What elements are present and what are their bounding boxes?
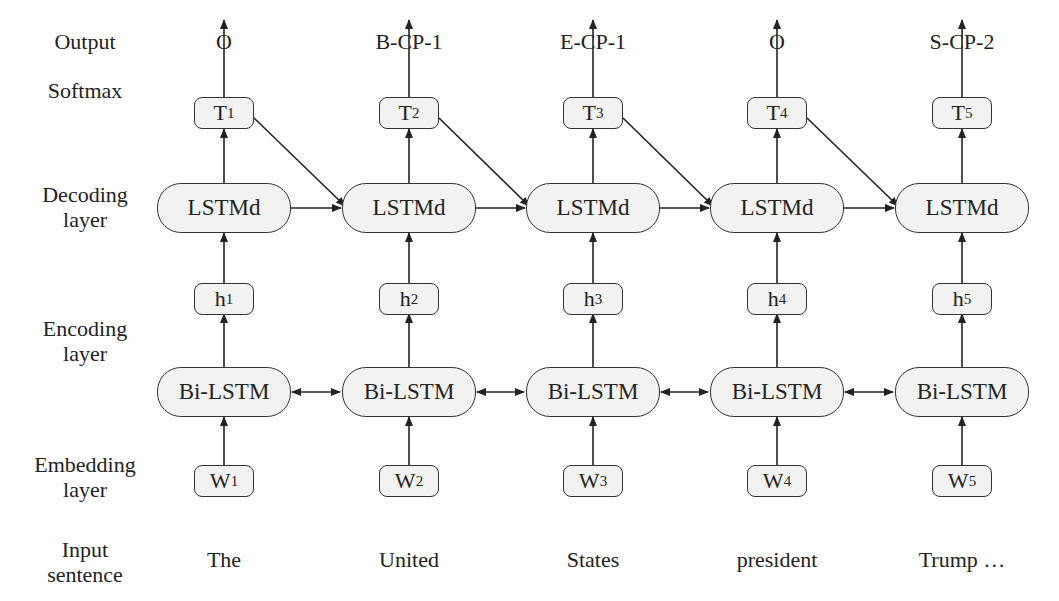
row-label-decoding-line1: Decoding [0, 182, 170, 207]
input-word: Trump … [882, 547, 1042, 573]
hidden-state-node: h2 [379, 283, 439, 315]
row-label-encoding-line2: layer [0, 341, 170, 366]
encoder-bilstm-node: Bi-LSTM [895, 367, 1029, 417]
output-label: E-CP-1 [513, 29, 673, 55]
row-label-encoding-line1: Encoding [0, 316, 170, 341]
row-label-embedding-line1: Embedding [0, 452, 170, 477]
encoder-bilstm-node: Bi-LSTM [526, 367, 660, 417]
output-label: B-CP-1 [329, 29, 489, 55]
hidden-state-node: h3 [563, 283, 623, 315]
output-label: O [697, 29, 857, 55]
decoder-lstm-node: LSTMd [157, 183, 291, 233]
row-label-decoding-line2: layer [0, 207, 170, 232]
output-label: O [144, 29, 304, 55]
encoder-bilstm-node: Bi-LSTM [157, 367, 291, 417]
tag-node: T4 [747, 97, 807, 129]
input-word: The [144, 547, 304, 573]
decoder-lstm-node: LSTMd [526, 183, 660, 233]
word-embedding-node: W1 [194, 465, 254, 497]
encoder-bilstm-node: Bi-LSTM [342, 367, 476, 417]
row-label-decoding: Decoding layer [0, 182, 170, 232]
tag-node: T2 [379, 97, 439, 129]
row-label-embedding: Embedding layer [0, 452, 170, 502]
input-word: United [329, 547, 489, 573]
hidden-state-node: h5 [932, 283, 992, 315]
tag-node: T3 [563, 97, 623, 129]
input-word: States [513, 547, 673, 573]
hidden-state-node: h4 [747, 283, 807, 315]
output-label: S-CP-2 [882, 29, 1042, 55]
row-label-embedding-line2: layer [0, 477, 170, 502]
word-embedding-node: W4 [747, 465, 807, 497]
decoder-lstm-node: LSTMd [895, 183, 1029, 233]
decoder-lstm-node: LSTMd [342, 183, 476, 233]
word-embedding-node: W5 [932, 465, 992, 497]
encoder-bilstm-node: Bi-LSTM [710, 367, 844, 417]
decoder-lstm-node: LSTMd [710, 183, 844, 233]
tag-node: T1 [194, 97, 254, 129]
row-label-softmax: Softmax [0, 78, 170, 103]
hidden-state-node: h1 [194, 283, 254, 315]
row-label-encoding: Encoding layer [0, 316, 170, 366]
word-embedding-node: W2 [379, 465, 439, 497]
word-embedding-node: W3 [563, 465, 623, 497]
tag-node: T5 [932, 97, 992, 129]
input-word: president [697, 547, 857, 573]
